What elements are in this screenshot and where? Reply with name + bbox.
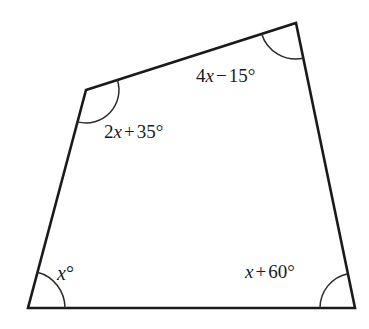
degree-symbol-top-right: °	[248, 65, 256, 86]
angle-variable-top-right: x	[206, 65, 214, 86]
quadrilateral-diagram-svg	[0, 0, 369, 329]
angle-arc-bottom-right	[320, 274, 348, 308]
angle-coefficient-top-left: 2	[104, 121, 114, 142]
geometry-figure-canvas: 4x−15° 2x+35° x° x+60°	[0, 0, 369, 329]
angle-operator-bottom-right: +	[253, 261, 268, 282]
angle-label-bottom-right: x+60°	[245, 262, 295, 281]
angle-variable-top-left: x	[114, 121, 122, 142]
angle-variable-bottom-left: x	[57, 262, 66, 284]
angle-label-top-left: 2x+35°	[104, 122, 163, 141]
angle-constant-top-right: 15	[229, 65, 248, 86]
angle-label-top-right: 4x−15°	[196, 66, 255, 85]
degree-symbol-top-left: °	[156, 121, 164, 142]
quadrilateral-outline	[28, 23, 355, 308]
angle-operator-top-right: −	[214, 65, 229, 86]
angle-operator-top-left: +	[122, 121, 137, 142]
angle-arc-top-right	[262, 34, 304, 59]
degree-symbol-bottom-left: °	[66, 262, 74, 284]
angle-constant-top-left: 35	[137, 121, 156, 142]
degree-symbol-bottom-right: °	[287, 261, 295, 282]
angle-label-bottom-left: x°	[57, 263, 74, 283]
angle-coefficient-top-right: 4	[196, 65, 206, 86]
angle-constant-bottom-right: 60	[268, 261, 287, 282]
